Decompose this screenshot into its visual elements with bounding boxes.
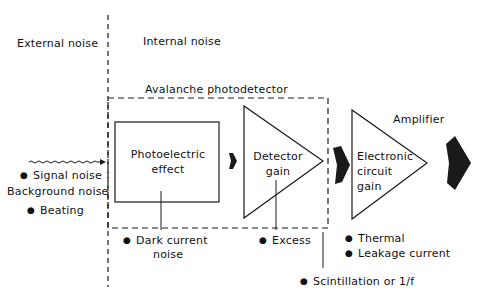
background-noise-item: Background noise — [7, 185, 109, 198]
small-flow-arrow-icon — [229, 153, 237, 169]
output-arrow-icon — [446, 136, 471, 190]
signal-noise-item: Signal noise — [20, 169, 102, 183]
leakage-current-item: Leakage current — [345, 247, 450, 261]
amplifier-line2: circuit — [357, 165, 413, 178]
excess-item: Excess — [259, 234, 311, 248]
thermal-item: Thermal — [345, 232, 405, 246]
amplifier-line1: Electronic — [357, 150, 413, 163]
internal-noise-label: Internal noise — [143, 35, 221, 48]
photoelectric-block-label: Photoelectric effect — [127, 148, 209, 176]
detector-line2: gain — [247, 165, 309, 178]
amplifier-line3: gain — [357, 180, 413, 193]
detector-gain-label: Detector gain — [247, 150, 309, 178]
medium-flow-arrow-icon — [333, 146, 350, 184]
dark-current-item: Dark current — [123, 234, 208, 248]
external-noise-label: External noise — [17, 37, 98, 50]
avalanche-photodetector-title: Avalanche photodetector — [145, 83, 288, 96]
photoelectric-line2: effect — [127, 163, 209, 176]
photoelectric-line1: Photoelectric — [127, 148, 209, 161]
scintillation-item: Scintillation or 1/f — [300, 275, 414, 289]
amplifier-title: Amplifier — [393, 113, 444, 126]
beating-item: Beating — [27, 204, 84, 218]
input-arrowhead-icon — [100, 159, 106, 165]
dark-current-item-line2: noise — [153, 248, 183, 261]
detector-line1: Detector — [247, 150, 309, 163]
input-signal-wave — [29, 161, 103, 163]
amplifier-block-label: Electronic circuit gain — [357, 150, 413, 193]
